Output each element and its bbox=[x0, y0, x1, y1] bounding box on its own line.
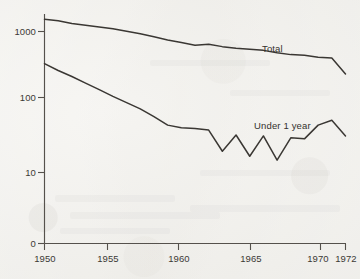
x-tick-label-1950: 1950 bbox=[34, 253, 56, 264]
series-line-under-1-year bbox=[45, 64, 346, 160]
x-tick-label-1960: 1960 bbox=[168, 253, 190, 264]
x-tick-label-1972: 1972 bbox=[335, 253, 357, 264]
y-axis-ticks bbox=[38, 32, 45, 244]
y-tick-label-0: 0 bbox=[31, 238, 36, 249]
chart-container: 1000 100 10 0 1950 1955 1960 1965 1970 1… bbox=[0, 0, 360, 279]
series-annotation-total: Total bbox=[262, 43, 283, 54]
y-tick-label-1000: 1000 bbox=[14, 26, 36, 37]
x-tick-label-1965: 1965 bbox=[240, 253, 262, 264]
y-tick-label-100: 100 bbox=[20, 92, 36, 103]
x-tick-label-1970: 1970 bbox=[307, 253, 329, 264]
series-annotation-under-1-year: Under 1 year bbox=[254, 120, 311, 131]
series-line-total bbox=[45, 19, 346, 74]
line-chart-plot: 1000 100 10 0 1950 1955 1960 1965 1970 1… bbox=[0, 0, 360, 279]
x-tick-label-1955: 1955 bbox=[97, 253, 119, 264]
x-axis-ticks bbox=[45, 244, 346, 251]
y-tick-label-10: 10 bbox=[25, 167, 36, 178]
